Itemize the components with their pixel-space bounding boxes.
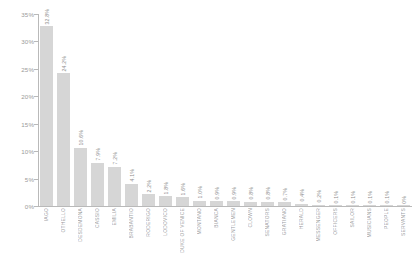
x-axis-label-slot: DUKE OF VENICE — [174, 208, 191, 262]
x-axis-category-label: OTHELLO — [61, 208, 66, 234]
x-axis-category-label: HERALD — [299, 208, 304, 230]
bar — [278, 202, 290, 206]
bar-item: 0.9% — [208, 14, 225, 206]
bar — [142, 194, 154, 206]
x-axis-label-slot: HERALD — [293, 208, 310, 262]
x-axis-label-slot: LODOVICO — [157, 208, 174, 262]
bar — [227, 201, 239, 206]
bar — [210, 201, 222, 206]
bar — [295, 204, 307, 206]
x-axis-category-label: SERVANTS — [401, 208, 406, 237]
x-axis-category-label: CLOWN — [248, 208, 253, 228]
x-axis-label-slot: GRATIANO — [276, 208, 293, 262]
x-axis-category-label: IAGO — [44, 208, 49, 222]
x-axis-category-label: GRATIANO — [282, 208, 287, 236]
x-axis-category-label: GENTLEMEN — [231, 208, 236, 242]
bar-value-label: 7.2% — [112, 152, 118, 164]
bar-series: 32.8%24.2%10.6%7.9%7.2%4.1%2.2%1.8%1.6%1… — [38, 14, 412, 206]
bar-item: 0.9% — [225, 14, 242, 206]
bar-item: 7.2% — [106, 14, 123, 206]
bar-value-label: 0.1% — [384, 191, 390, 203]
x-axis-label-slot: RODERIGO — [140, 208, 157, 262]
bar-value-label: 0.8% — [265, 187, 271, 199]
x-axis-label-slot: MUSICIANS — [361, 208, 378, 262]
x-axis-label-slot: IAGO — [38, 208, 55, 262]
y-axis-tick-label: 25% — [21, 65, 34, 72]
y-axis-tick-label: 10% — [21, 148, 34, 155]
bar-value-label: 1.8% — [163, 182, 169, 194]
bar — [91, 163, 103, 206]
x-axis-category-label: BIANCA — [214, 208, 219, 229]
bar-item: 0% — [395, 14, 412, 206]
bar — [108, 167, 120, 206]
bar-value-label: 10.6% — [78, 130, 84, 145]
x-axis-label-slot: PEOPLE — [378, 208, 395, 262]
x-axis-category-label: MESSENGER — [316, 208, 321, 243]
x-axis-label-slot: SAILOR — [344, 208, 361, 262]
x-axis-category-label: BRABANTIO — [129, 208, 134, 240]
bar-item: 0.2% — [310, 14, 327, 206]
bar-item: 1.0% — [191, 14, 208, 206]
bar-value-label: 0.1% — [367, 191, 373, 203]
x-axis-category-label: RODERIGO — [146, 208, 151, 238]
bar — [57, 73, 69, 206]
bar-value-label: 0.8% — [248, 187, 254, 199]
bar — [397, 205, 409, 206]
x-axis-label-slot: CASSIO — [89, 208, 106, 262]
bar-item: 0.1% — [378, 14, 395, 206]
bar-value-label: 2.2% — [146, 180, 152, 192]
x-axis-category-label: CASSIO — [95, 208, 100, 229]
bar-value-label: 0.9% — [214, 187, 220, 199]
bar-item: 0.1% — [327, 14, 344, 206]
x-axis-label-slot: SENATORS — [259, 208, 276, 262]
bar-value-label: 0.9% — [231, 187, 237, 199]
bar-item: 2.2% — [140, 14, 157, 206]
bar-item: 1.6% — [174, 14, 191, 206]
x-axis-category-label: MUSICIANS — [367, 208, 372, 238]
x-axis-label-slot: CLOWN — [242, 208, 259, 262]
bar-item: 0.4% — [293, 14, 310, 206]
x-axis-label-slot: DESDEMONA — [72, 208, 89, 262]
bar-item: 0.7% — [276, 14, 293, 206]
y-axis-tick-label: 5% — [25, 175, 34, 182]
x-axis-category-label: PEOPLE — [384, 208, 389, 230]
bar-value-label: 32.8% — [44, 9, 50, 24]
bar-item: 1.8% — [157, 14, 174, 206]
bar — [159, 196, 171, 206]
x-axis-label-slot: OTHELLO — [55, 208, 72, 262]
x-axis-category-label: SENATORS — [265, 208, 270, 237]
bar — [40, 26, 52, 206]
x-axis-label-slot: MESSENGER — [310, 208, 327, 262]
x-axis-category-label: SAILOR — [350, 208, 355, 228]
bar-item: 0.1% — [344, 14, 361, 206]
y-axis-tick-label: 20% — [21, 93, 34, 100]
bar-value-label: 1.6% — [180, 183, 186, 195]
x-axis-label-slot: EMILIA — [106, 208, 123, 262]
bar — [125, 184, 137, 206]
x-axis-line — [38, 206, 412, 207]
bar-value-label: 0.1% — [333, 191, 339, 203]
bar-item: 10.6% — [72, 14, 89, 206]
x-axis-category-label: DUKE OF VENICE — [180, 208, 185, 254]
plot-area: 32.8%24.2%10.6%7.9%7.2%4.1%2.2%1.8%1.6%1… — [38, 14, 412, 206]
bar-item: 7.9% — [89, 14, 106, 206]
x-axis-category-label: OFFICERS — [333, 208, 338, 236]
y-axis-tick-label: 35% — [21, 11, 34, 18]
y-axis-tick-label: 30% — [21, 38, 34, 45]
bar-item: 24.2% — [55, 14, 72, 206]
bar-value-label: 0.4% — [299, 189, 305, 201]
bar-chart: 0%5%10%15%20%25%30%35% 32.8%24.2%10.6%7.… — [0, 0, 420, 262]
bar — [312, 205, 324, 206]
x-axis-label-slot: SERVANTS — [395, 208, 412, 262]
x-axis-label-slot: MONTANO — [191, 208, 208, 262]
bar-value-label: 0.7% — [282, 188, 288, 200]
bar-item: 0.8% — [259, 14, 276, 206]
x-axis-category-label: LODOVICO — [163, 208, 168, 237]
x-axis-labels: IAGOOTHELLODESDEMONACASSIOEMILIABRABANTI… — [38, 208, 412, 262]
y-axis-tick-label: 0% — [25, 203, 34, 210]
bar-item: 0.1% — [361, 14, 378, 206]
bar — [363, 205, 375, 206]
bar-item: 0.8% — [242, 14, 259, 206]
bar — [176, 197, 188, 206]
x-axis-category-label: DESDEMONA — [78, 208, 83, 243]
